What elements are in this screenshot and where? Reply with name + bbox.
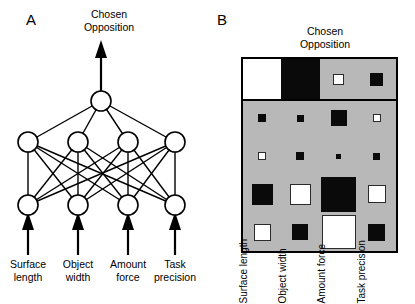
matrix-title: Chosen Opposition	[255, 25, 395, 50]
matrix-cell-r3-c1	[243, 137, 281, 175]
input-label-line2: precision	[145, 271, 205, 284]
weight-square-neg	[281, 59, 319, 99]
weight-square-pos	[254, 224, 271, 241]
matrix-column-label-object-width: Object width	[277, 254, 289, 303]
panel-b-weight-matrix: B Chosen Opposition Surface length Objec…	[208, 0, 415, 304]
network-node-input-4	[165, 195, 185, 215]
matrix-column-labels: Surface length Object width Amount force…	[241, 255, 398, 304]
matrix-cell-r4-c3	[320, 175, 358, 213]
network-node-output	[91, 91, 111, 111]
weight-square-pos	[243, 59, 281, 99]
matrix-row-hidden-unit-3	[243, 175, 396, 213]
network-node-hidden-4	[165, 132, 185, 152]
network-input-labels: Surface length Object width Amount force…	[0, 258, 208, 290]
weight-square-pos	[322, 215, 356, 249]
matrix-cell-r1-c2	[281, 59, 319, 99]
network-node-input-1	[18, 195, 38, 215]
figure-root: A Chosen Opposition	[0, 0, 415, 304]
weight-square-neg	[292, 224, 308, 240]
weight-square-neg	[373, 153, 380, 160]
weight-square-neg	[331, 110, 347, 126]
matrix-cell-r1-c4	[358, 59, 396, 99]
matrix-cell-r2-c1	[243, 99, 281, 137]
matrix-row-output-weights	[243, 59, 396, 99]
network-node-hidden-1	[18, 132, 38, 152]
weight-square-neg	[297, 115, 304, 122]
weight-square-neg	[368, 224, 385, 241]
matrix-cell-r3-c3	[320, 137, 358, 175]
network-input-arrows	[22, 212, 181, 255]
matrix-column-label-amount-force: Amount force	[316, 254, 328, 303]
weight-square-pos	[290, 184, 311, 205]
network-node-input-3	[118, 195, 138, 215]
matrix-title-line2: Opposition	[255, 38, 395, 51]
matrix-cell-r4-c1	[243, 175, 281, 213]
matrix-cell-r3-c2	[281, 137, 319, 175]
matrix-cell-r5-c1	[243, 213, 281, 251]
matrix-column-label-surface-length: Surface length	[238, 254, 250, 303]
matrix-row-hidden-unit-1	[243, 99, 396, 137]
matrix-band-divider	[243, 99, 396, 101]
matrix-row-hidden-unit-2	[243, 137, 396, 175]
matrix-title-line1: Chosen	[255, 25, 395, 38]
matrix-cell-r1-c3	[320, 59, 358, 99]
network-node-input-2	[68, 195, 88, 215]
matrix-cell-r4-c4	[358, 175, 396, 213]
weight-square-neg	[296, 152, 304, 160]
matrix-cell-r2-c3	[320, 99, 358, 137]
matrix-cell-r3-c4	[358, 137, 396, 175]
panel-a-network-diagram: A Chosen Opposition	[0, 0, 208, 304]
network-output-arrow	[95, 40, 107, 92]
network-node-hidden-2	[68, 132, 88, 152]
panel-b-letter: B	[217, 12, 228, 27]
network-input-label-task-precision: Task precision	[145, 258, 205, 283]
matrix-cell-r1-c1	[243, 59, 281, 99]
network-edges-input-to-hidden	[28, 142, 175, 205]
matrix-cell-r2-c2	[281, 99, 319, 137]
weight-square-neg	[252, 184, 273, 205]
weight-square-neg	[321, 177, 356, 212]
matrix-cell-r2-c4	[358, 99, 396, 137]
weight-square-pos	[373, 114, 381, 122]
weight-square-pos	[258, 152, 266, 160]
weight-square-neg	[336, 154, 341, 159]
matrix-cell-r4-c2	[281, 175, 319, 213]
weight-square-pos	[368, 185, 386, 203]
matrix-column-label-task-precision: Task precision	[356, 254, 368, 303]
matrix-cell-r5-c2	[281, 213, 319, 251]
weight-square-pos	[333, 74, 344, 85]
network-node-hidden-3	[118, 132, 138, 152]
input-label-line1: Task	[145, 258, 205, 271]
weight-square-neg	[370, 73, 383, 86]
weight-matrix	[241, 57, 398, 253]
weight-square-neg	[258, 114, 266, 122]
